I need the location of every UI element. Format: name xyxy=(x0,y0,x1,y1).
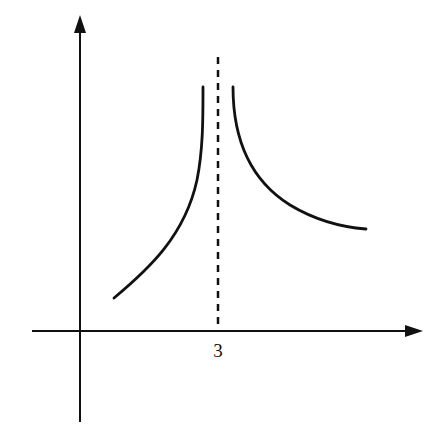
function-graph: 3 xyxy=(0,0,441,433)
curve-left-branch xyxy=(114,87,203,298)
curve-right-branch xyxy=(233,87,366,229)
y-axis-arrow-icon xyxy=(74,15,86,33)
x-tick-label-3: 3 xyxy=(213,340,223,361)
y-axis xyxy=(74,15,86,422)
x-axis xyxy=(32,325,423,337)
x-axis-arrow-icon xyxy=(405,325,423,337)
